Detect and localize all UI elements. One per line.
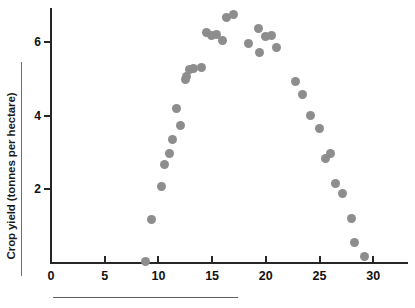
data-point — [172, 104, 181, 113]
data-point — [315, 124, 324, 133]
data-point — [176, 121, 185, 130]
data-point — [291, 77, 300, 86]
data-point — [157, 182, 166, 191]
data-point — [360, 252, 369, 261]
x-tick-mark — [265, 256, 267, 263]
x-tick-mark — [50, 256, 52, 263]
data-point — [350, 238, 359, 247]
data-point — [298, 90, 307, 99]
data-point — [244, 39, 253, 48]
y-tick-label: 2 — [15, 183, 41, 195]
data-point — [168, 135, 177, 144]
x-tick-label: 30 — [358, 270, 388, 283]
y-tick-mark — [44, 188, 51, 190]
data-point — [347, 214, 356, 223]
x-tick-label: 20 — [251, 270, 281, 283]
y-tick-mark — [44, 41, 51, 43]
data-point — [229, 10, 238, 19]
x-tick-label: 10 — [143, 270, 173, 283]
x-tick-label: 15 — [197, 270, 227, 283]
data-point — [254, 24, 263, 33]
data-point — [197, 63, 206, 72]
plot-area: 246051015202530 — [0, 0, 415, 308]
data-point — [165, 149, 174, 158]
x-tick-mark — [211, 256, 213, 263]
data-point — [255, 48, 264, 57]
data-point — [218, 36, 227, 45]
y-tick-mark — [44, 115, 51, 117]
y-tick-label: 4 — [15, 110, 41, 122]
x-tick-mark — [319, 256, 321, 263]
x-tick-mark — [372, 256, 374, 263]
data-point — [272, 43, 281, 52]
x-tick-label: 0 — [36, 270, 66, 283]
y-tick-label: 6 — [15, 36, 41, 48]
data-point — [160, 160, 169, 169]
data-point — [267, 31, 276, 40]
x-tick-mark — [104, 256, 106, 263]
x-tick-label: 5 — [90, 270, 120, 283]
data-point — [338, 189, 347, 198]
caption-rule — [53, 297, 238, 298]
data-point — [331, 179, 340, 188]
scatter-plot-figure: Crop yield (tonnes per hectare) 24605101… — [0, 0, 415, 308]
x-tick-mark — [157, 256, 159, 263]
data-point — [147, 215, 156, 224]
data-point — [326, 149, 335, 158]
data-point — [306, 111, 315, 120]
data-point — [141, 257, 150, 266]
x-tick-label: 25 — [305, 270, 335, 283]
